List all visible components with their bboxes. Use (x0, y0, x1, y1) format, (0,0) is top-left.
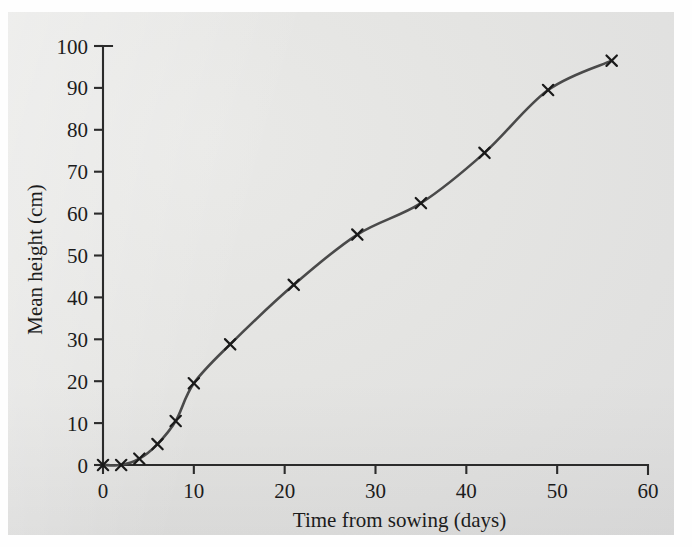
data-point-marker (189, 378, 199, 388)
x-tick-label: 10 (183, 479, 204, 503)
y-axis-title: Mean height (cm) (23, 184, 47, 334)
figure-page: 0102030405060708090100 0102030405060 Tim… (0, 0, 692, 547)
data-point-marker (134, 454, 144, 464)
data-point-marker (225, 339, 235, 349)
x-tick-label: 40 (456, 479, 477, 503)
y-tick-label: 80 (67, 118, 88, 142)
x-axis-title: Time from sowing (days) (293, 508, 506, 532)
x-axis-tick-marks (103, 465, 557, 474)
x-tick-label: 20 (274, 479, 295, 503)
y-axis-tick-labels: 0102030405060708090100 (57, 35, 89, 478)
y-axis-tick-marks (94, 46, 103, 465)
x-tick-label: 50 (547, 479, 568, 503)
data-point-marker (152, 439, 162, 449)
x-axis-tick-labels: 0102030405060 (98, 479, 659, 503)
data-point-marker (170, 416, 180, 426)
y-tick-label: 10 (67, 412, 88, 436)
data-point-marker (416, 198, 426, 208)
data-point-markers (98, 55, 617, 470)
y-tick-label: 40 (67, 286, 88, 310)
y-tick-label: 70 (67, 160, 88, 184)
x-tick-label: 60 (638, 479, 659, 503)
data-point-marker (289, 280, 299, 290)
y-tick-label: 50 (67, 244, 88, 268)
data-curve (103, 61, 612, 466)
y-tick-label: 60 (67, 202, 88, 226)
y-tick-label: 100 (57, 35, 89, 59)
y-tick-label: 90 (67, 76, 88, 100)
line-chart: 0102030405060708090100 0102030405060 Tim… (0, 0, 692, 547)
y-tick-label: 30 (67, 328, 88, 352)
y-axis-line (103, 46, 112, 465)
x-tick-label: 0 (98, 479, 109, 503)
data-point-marker (543, 85, 553, 95)
y-tick-label: 20 (67, 370, 88, 394)
x-tick-label: 30 (365, 479, 386, 503)
y-tick-label: 0 (78, 454, 89, 478)
data-point-marker (479, 148, 489, 158)
data-point-marker (352, 229, 362, 239)
data-point-marker (606, 55, 616, 65)
